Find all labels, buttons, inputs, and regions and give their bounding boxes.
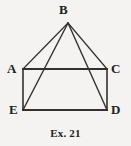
vertex-label-a: A — [7, 62, 16, 75]
vertex-label-b: B — [59, 3, 68, 16]
vertex-label-d: D — [111, 103, 120, 116]
figure-caption: Ex. 21 — [0, 127, 131, 139]
segment-BD — [68, 23, 107, 110]
segment-BC — [68, 23, 107, 69]
segment-BA — [23, 23, 68, 69]
geometry-figure: B A C E D Ex. 21 — [0, 0, 131, 146]
vertex-label-c: C — [111, 62, 120, 75]
segment-BE — [23, 23, 68, 110]
vertex-label-e: E — [9, 103, 18, 116]
